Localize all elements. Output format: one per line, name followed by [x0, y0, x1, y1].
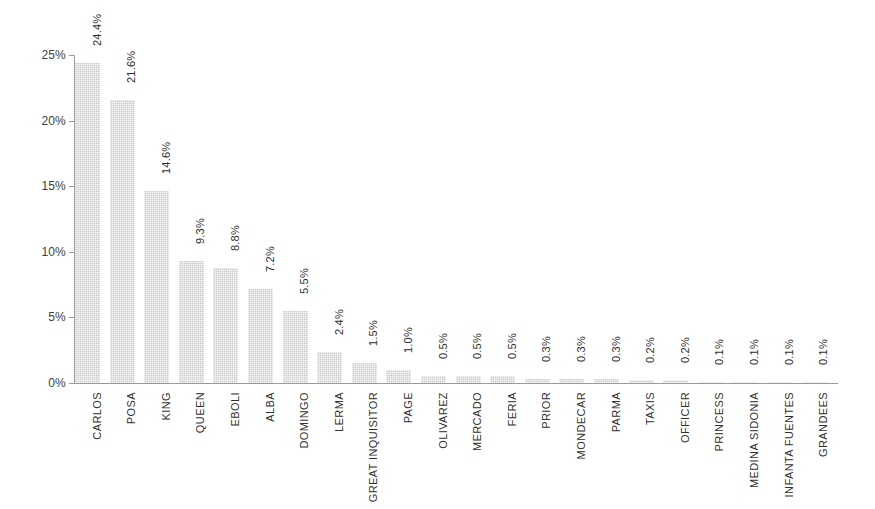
bar-slot: 2.4% [317, 40, 342, 383]
category-label: LERMA [334, 352, 345, 392]
category-label-text: POSA [126, 392, 137, 424]
category-label: FERIA [507, 358, 518, 392]
category-label-text: TAXIS [645, 392, 656, 425]
category-label: PARMA [611, 352, 622, 392]
bar-slot: 0.3% [525, 40, 550, 383]
category-label: CARLOS [92, 344, 103, 392]
bar-value-label: 2.4% [334, 309, 345, 335]
category-label-text: KING [161, 392, 172, 421]
bar-slot: 21.6% [110, 40, 135, 383]
bar-chart: 0%5%10%15%20%25% 24.4%21.6%14.6%9.3%8.8%… [0, 0, 875, 509]
bar-value-label: 8.8% [230, 225, 241, 251]
category-label: POSA [126, 360, 137, 392]
bar-slot: 1.0% [386, 40, 411, 383]
category-label-text: CARLOS [92, 392, 103, 440]
category-label-text: OLIVAREZ [438, 392, 449, 449]
category-label: MERCADO [472, 333, 483, 392]
category-label: QUEEN [195, 351, 206, 392]
category-label-text: QUEEN [195, 392, 206, 433]
bar-slot: 14.6% [144, 40, 169, 383]
bar-value-label: 21.6% [126, 50, 137, 82]
category-label: PRINCESS [714, 333, 725, 392]
category-label-text: GREAT INQUISITOR [368, 392, 379, 502]
category-label: DOMINGO [299, 335, 310, 392]
bar-slot: 8.8% [213, 40, 238, 383]
y-axis-tick-label: 10% [22, 246, 66, 258]
bar-value-label: 5.5% [299, 268, 310, 294]
y-axis-tick-label: 20% [22, 115, 66, 127]
category-label-text: INFANTA FUENTES [784, 392, 795, 497]
bar-slot: 5.5% [283, 40, 308, 383]
bar-slot: 0.5% [456, 40, 481, 383]
bar[interactable] [110, 100, 135, 383]
y-axis-tick-label: 5% [22, 311, 66, 323]
bar-slot: 24.4% [75, 40, 100, 383]
bar-value-label: 7.2% [265, 246, 276, 272]
category-label-text: ALBA [265, 392, 276, 422]
y-axis-tick-label: 25% [22, 49, 66, 61]
bar-slot: 0.5% [490, 40, 515, 383]
category-label: GREAT INQUISITOR [368, 282, 379, 392]
category-label: MONDECAR [576, 325, 587, 392]
category-label: PAGE [403, 361, 414, 392]
bar-slot: 7.2% [248, 40, 273, 383]
y-axis-tick-label: 15% [22, 180, 66, 192]
category-label-text: EBOLI [230, 392, 241, 426]
bar-slot: 0.3% [594, 40, 619, 383]
category-label: OFFICER [680, 341, 691, 392]
category-label: EBOLI [230, 358, 241, 392]
category-label-text: MERCADO [472, 392, 483, 451]
category-label: OLIVAREZ [438, 335, 449, 392]
category-label-text: DOMINGO [299, 392, 310, 449]
y-axis-tick-label-wrap: 20% [18, 115, 66, 127]
bar-slot: 0.2% [629, 40, 654, 383]
category-label-text: GRANDEES [818, 392, 829, 457]
y-axis-tick-label-wrap: 0% [18, 377, 66, 389]
y-axis-tick-label-wrap: 15% [18, 180, 66, 192]
bar-value-label: 0.5% [507, 334, 518, 360]
category-label-text: PARMA [611, 392, 622, 432]
category-label: TAXIS [645, 359, 656, 392]
bar-slot: 9.3% [179, 40, 204, 383]
category-label: INFANTA FUENTES [784, 287, 795, 392]
bar[interactable] [75, 63, 100, 383]
category-label-text: FERIA [507, 392, 518, 426]
bar-slot: 0.1% [698, 40, 723, 383]
category-label-text: PAGE [403, 392, 414, 423]
y-axis-tick-label-wrap: 10% [18, 246, 66, 258]
bars-group: 24.4%21.6%14.6%9.3%8.8%7.2%5.5%2.4%1.5%1… [75, 40, 838, 383]
y-axis-tick-label-wrap: 5% [18, 311, 66, 323]
category-label-text: MONDECAR [576, 392, 587, 459]
category-label-text: PRIOR [541, 392, 552, 429]
bar-slot: 0.2% [663, 40, 688, 383]
category-label: GRANDEES [818, 327, 829, 392]
y-axis-tick-label: 0% [22, 377, 66, 389]
category-label-text: MEDINA SIDONIA [749, 392, 760, 488]
y-axis-tick-label-wrap: 25% [18, 49, 66, 61]
category-label: MEDINA SIDONIA [749, 296, 760, 392]
bar-value-label: 1.0% [403, 327, 414, 353]
category-label: KING [161, 364, 172, 393]
bar[interactable] [144, 191, 169, 383]
category-label: PRIOR [541, 355, 552, 392]
category-label-text: LERMA [334, 392, 345, 432]
category-label-text: PRINCESS [714, 392, 725, 451]
y-axis-tick [69, 383, 75, 384]
bar-value-label: 14.6% [161, 142, 172, 174]
category-label: ALBA [265, 362, 276, 392]
category-label-text: OFFICER [680, 392, 691, 443]
bar-value-label: 9.3% [195, 218, 206, 244]
bar-slot: 0.5% [421, 40, 446, 383]
bar-value-label: 24.4% [92, 14, 103, 46]
